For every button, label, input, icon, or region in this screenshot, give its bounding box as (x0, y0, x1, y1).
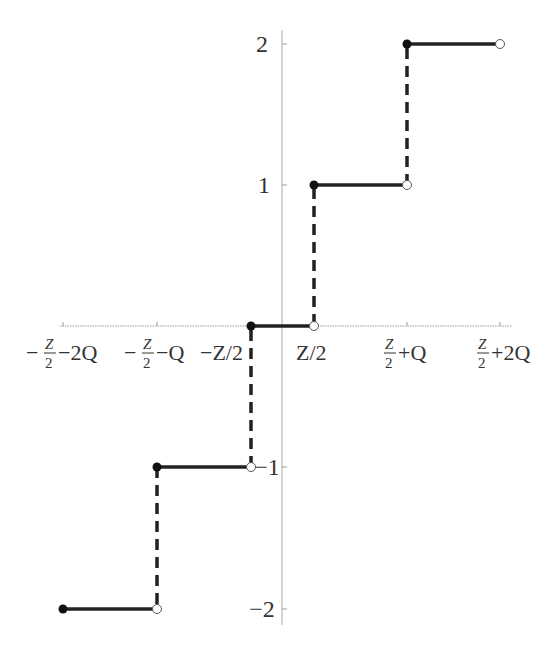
svg-text:2: 2 (478, 355, 486, 371)
x-tick-label-z2: Z/2 (296, 340, 327, 365)
svg-text:Z: Z (385, 336, 394, 352)
y-tick-label-1: 1 (258, 172, 270, 198)
x-tick-label-neg-z2-q: − Z 2 −Q (124, 336, 184, 371)
svg-text:−2Q: −2Q (58, 340, 97, 365)
x-tick-label-neg-z2-2q: − Z 2 −2Q (26, 336, 97, 371)
svg-text:Z: Z (143, 336, 152, 352)
svg-text:+Q: +Q (398, 340, 426, 365)
x-tick-label-neg-z2: −Z/2 (200, 340, 243, 365)
svg-text:−: − (124, 340, 136, 365)
svg-text:2: 2 (45, 355, 53, 371)
svg-text:Z: Z (478, 336, 487, 352)
step-chart: 2 1 −1 −2 − Z 2 −2Q − Z 2 −Q −Z/2 Z/2 Z … (0, 0, 551, 653)
y-tick-label-neg1: −1 (254, 454, 280, 480)
y-tick-label-neg2: −2 (249, 596, 275, 622)
svg-text:+2Q: +2Q (491, 340, 530, 365)
x-tick-label-z2-2q: Z 2 +2Q (477, 336, 530, 371)
svg-text:2: 2 (143, 355, 151, 371)
svg-text:Z: Z (45, 336, 54, 352)
y-tick-label-2: 2 (256, 31, 268, 57)
x-tick-label-z2-q: Z 2 +Q (384, 336, 426, 371)
svg-text:−: − (26, 340, 38, 365)
svg-text:−Q: −Q (156, 340, 184, 365)
svg-text:2: 2 (385, 355, 393, 371)
